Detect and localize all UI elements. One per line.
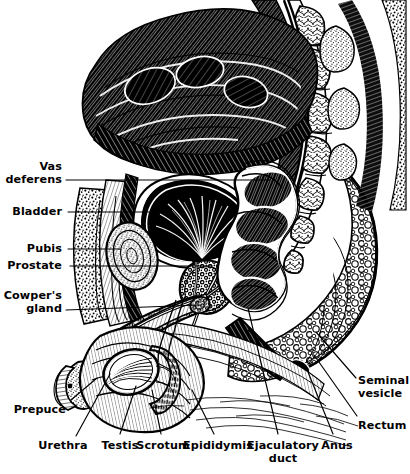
label-rectum: Rectum [358, 420, 406, 433]
label-bladder: Bladder [12, 206, 62, 219]
label-seminal-vesicle: Seminal vesicle [358, 375, 409, 400]
label-testis: Testis [102, 440, 139, 453]
label-scrotum: Scrotum [136, 440, 190, 453]
label-prepuce: Prepuce [14, 404, 66, 417]
label-ejaculatory-duct: Ejaculatory duct [247, 440, 319, 465]
label-prostate: Prostate [7, 260, 62, 273]
label-urethra: Urethra [38, 440, 87, 453]
label-epididymis: Epididymis [183, 440, 253, 453]
label-pubis: Pubis [27, 243, 62, 256]
label-vas-deferens: Vas deferens [5, 161, 62, 186]
label-cowpers-gland: Cowper's gland [4, 290, 62, 315]
label-anus: Anus [321, 440, 353, 453]
